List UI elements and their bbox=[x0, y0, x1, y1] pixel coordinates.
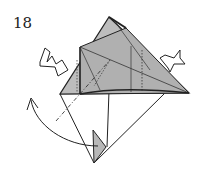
lower-white-flap bbox=[60, 91, 165, 163]
push-arrow-left bbox=[40, 48, 68, 76]
colored-triangle bbox=[60, 17, 189, 94]
origami-diagram bbox=[0, 0, 202, 177]
